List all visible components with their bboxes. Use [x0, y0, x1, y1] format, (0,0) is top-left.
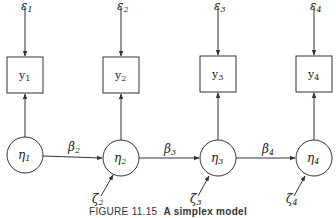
caption-title: A simplex model — [163, 206, 247, 217]
path-label-beta-3: β3 — [163, 142, 176, 157]
path-label-beta-2: β2 — [67, 140, 80, 155]
disturbance-arrow-2 — [101, 175, 113, 196]
caption-number: FIGURE 11.15 — [89, 206, 157, 217]
disturbance-arrow-3 — [198, 176, 209, 196]
error-label-1: ε1 — [21, 0, 33, 14]
column-2: ε2 y2 η2 ζ2 — [92, 0, 139, 207]
column-3: ε3 y3 η3 ζ3 — [190, 0, 236, 207]
simplex-model-diagram: ε1 y1 η1 ε2 y2 η2 ζ2 ε3 y3 η3 ζ3 ε4 y4 — [0, 0, 336, 218]
error-label-2: ε2 — [117, 0, 129, 14]
figure-caption: FIGURE 11.15A simplex model — [0, 206, 336, 217]
structural-paths: β2 β3 β4 — [43, 140, 295, 158]
error-label-3: ε3 — [214, 0, 226, 14]
disturbance-arrow-4 — [294, 176, 305, 196]
error-label-4: ε4 — [310, 0, 322, 14]
path-label-beta-4: β4 — [261, 142, 274, 157]
disturbance-label-3: ζ3 — [190, 192, 202, 207]
column-4: ε4 y4 η4 ζ4 — [286, 0, 332, 207]
column-1: ε1 y1 η1 — [7, 0, 43, 173]
path-arrow-beta-2 — [43, 156, 102, 158]
disturbance-label-4: ζ4 — [286, 192, 298, 207]
